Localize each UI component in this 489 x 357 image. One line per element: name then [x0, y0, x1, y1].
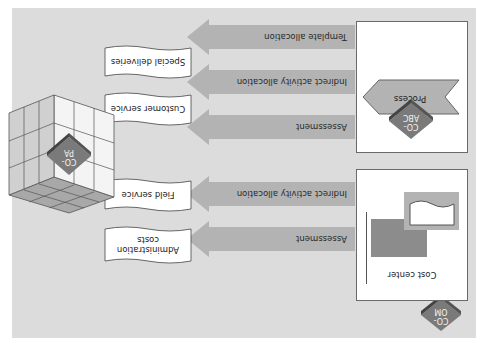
flow-arrow-indirect-activity-2: Indirect activity allocation	[187, 64, 355, 100]
co-pa-label-line1: CO-	[44, 157, 94, 166]
flow-arrow-assessment-1: Assessment	[187, 221, 355, 257]
flow-label: Assessment	[215, 109, 347, 145]
flow-label: Indirect activity allocation	[215, 64, 347, 100]
target-special-deliveries: Special deliveries	[104, 44, 192, 80]
target-label: Special deliveries	[104, 44, 192, 80]
co-om-label-line2: OM	[419, 307, 463, 316]
flow-arrow-template-allocation: Template allocation	[187, 19, 355, 55]
co-abc-module-icon: CO- ABC	[386, 97, 436, 141]
flow-arrow-assessment-2: Assessment	[187, 109, 355, 145]
cost-center-box: Cost center	[356, 169, 468, 301]
co-abc-label-line1: CO-	[386, 122, 436, 131]
flow-arrow-indirect-activity-1: Indirect activity allocation	[187, 176, 355, 212]
flow-label: Indirect activity allocation	[215, 176, 347, 212]
target-administration-costs: Administration costs	[104, 225, 192, 265]
flow-label: Template allocation	[215, 19, 347, 55]
co-pa-label-line2: PA	[44, 148, 94, 157]
target-label: Administration costs	[104, 225, 192, 265]
flow-label: Assessment	[215, 221, 347, 257]
diagram-canvas: CO- OM Cost center Process CO- ABC Asses…	[0, 0, 489, 357]
cost-center-label: Cost center	[357, 270, 467, 280]
co-abc-label-line2: ABC	[386, 113, 436, 122]
cost-center-document-icon	[409, 198, 455, 226]
co-om-label-line1: CO-	[419, 316, 463, 325]
co-pa-module-icon: CO- PA	[44, 131, 94, 177]
cost-center-divider	[366, 212, 367, 284]
